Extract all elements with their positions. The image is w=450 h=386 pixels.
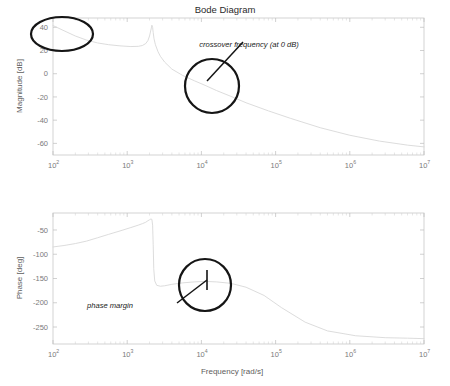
page-title: Bode Diagram [195, 4, 256, 15]
x-tick-exponent: 4 [205, 159, 208, 165]
crossover-frequency-label: crossover frequency (at 0 dB) [199, 40, 299, 49]
figure-background [0, 0, 450, 386]
phase-margin-label: phase margin [86, 301, 133, 310]
y-tick-label: 40 [40, 23, 48, 32]
y-tick-label: -50 [37, 226, 48, 235]
y-tick-label: 0 [44, 69, 48, 78]
x-tick-exponent: 7 [427, 348, 430, 354]
x-tick-exponent: 3 [131, 159, 134, 165]
y-tick-label: -200 [33, 298, 48, 307]
x-tick-exponent: 5 [279, 348, 282, 354]
x-axis-label: Frequency [rad/s] [201, 367, 263, 376]
y-tick-label: -20 [37, 93, 48, 102]
x-tick-exponent: 3 [131, 348, 134, 354]
x-tick-exponent: 2 [56, 348, 59, 354]
x-tick-exponent: 7 [427, 159, 430, 165]
y-tick-label: -100 [33, 250, 48, 259]
x-tick-exponent: 5 [279, 159, 282, 165]
x-tick-exponent: 6 [353, 348, 356, 354]
x-tick-exponent: 2 [56, 159, 59, 165]
x-tick-exponent: 4 [205, 348, 208, 354]
magnitude-y-axis-label: Magnitude [dB] [15, 59, 24, 113]
bode-diagram-figure: Bode Diagram 10210310410510610740200-20-… [0, 0, 450, 386]
phase-y-axis-label: Phase [deg] [15, 257, 24, 300]
y-tick-label: -150 [33, 274, 48, 283]
y-tick-label: -60 [37, 139, 48, 148]
x-tick-exponent: 6 [353, 159, 356, 165]
y-tick-label: -250 [33, 323, 48, 332]
y-tick-label: -40 [37, 116, 48, 125]
